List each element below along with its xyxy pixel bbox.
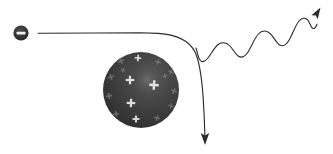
- bremsstrahlung-diagram: Bremsstrahlung: electron deflected by at…: [0, 0, 333, 154]
- nucleus-texture: [103, 52, 179, 128]
- incoming-electron-track: [38, 33, 158, 34]
- electron-minus-sign: [17, 32, 26, 35]
- electron: [13, 25, 28, 40]
- nucleus: [103, 52, 179, 128]
- diagram-canvas: [0, 0, 333, 154]
